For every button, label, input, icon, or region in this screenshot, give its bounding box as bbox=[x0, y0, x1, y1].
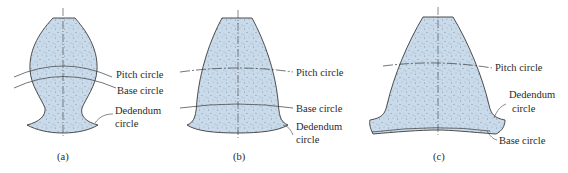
label-pitch-circle-b: Pitch circle bbox=[296, 68, 344, 79]
caption-c: (c) bbox=[433, 152, 445, 163]
gear-tooth-diagram bbox=[0, 0, 568, 173]
panel-b-tooth bbox=[180, 10, 293, 138]
label-base-circle-b: Base circle bbox=[296, 104, 342, 115]
tooth-profile-a bbox=[27, 18, 98, 133]
label-pitch-circle-a: Pitch circle bbox=[116, 70, 164, 81]
panel-a-tooth bbox=[14, 8, 116, 138]
label-pitch-circle-c: Pitch circle bbox=[495, 63, 543, 74]
caption-b: (b) bbox=[233, 152, 245, 163]
tooth-profile-b bbox=[187, 18, 288, 133]
dedendum-leader-c bbox=[494, 104, 506, 118]
label-dedendum-c-line1: Dedendum bbox=[509, 90, 555, 101]
label-base-circle-a: Base circle bbox=[117, 86, 163, 97]
label-dedendum-b-line2: circle bbox=[296, 135, 319, 146]
tooth-profile-c bbox=[370, 17, 505, 134]
label-base-circle-c: Base circle bbox=[499, 136, 545, 147]
label-dedendum-a-line1: Dedendum bbox=[115, 106, 161, 117]
label-dedendum-a-line2: circle bbox=[115, 119, 138, 130]
label-dedendum-c-line2: circle bbox=[512, 104, 535, 115]
label-dedendum-b-line1: Dedendum bbox=[296, 122, 342, 133]
caption-a: (a) bbox=[57, 152, 69, 163]
dedendum-leader-a bbox=[95, 114, 113, 123]
panel-c-tooth bbox=[370, 7, 506, 140]
